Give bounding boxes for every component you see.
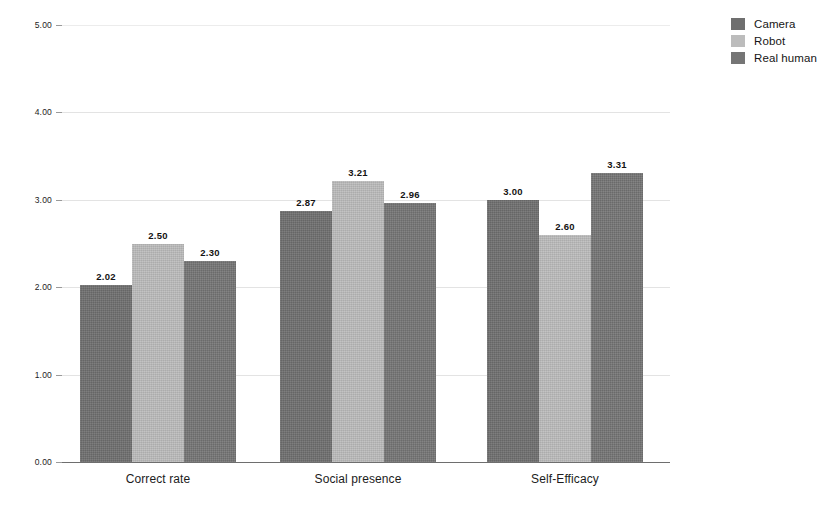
legend-item[interactable]: Real human — [731, 50, 817, 66]
legend-item[interactable]: Camera — [731, 16, 817, 32]
y-axis-tickmark — [56, 25, 62, 26]
y-axis-tick: 1.00 — [0, 371, 52, 372]
x-axis-category-label: Self-Efficacy — [531, 472, 599, 486]
bar-texture — [132, 244, 184, 463]
gridline — [62, 25, 670, 26]
chart-legend: CameraRobotReal human — [731, 16, 817, 67]
y-axis-tick: 4.00 — [0, 108, 52, 109]
x-axis-line — [62, 462, 670, 463]
bar: 2.30 — [184, 261, 236, 462]
bar-value-label: 2.02 — [96, 271, 115, 282]
y-axis-tick-label: 1.00 — [4, 371, 52, 380]
bar-texture — [280, 211, 332, 462]
bar-value-label: 2.87 — [296, 197, 315, 208]
bar-value-label: 2.30 — [200, 247, 219, 258]
y-axis-tick-label: 2.00 — [4, 283, 52, 292]
x-axis-category-label: Correct rate — [126, 472, 191, 486]
bar: 2.50 — [132, 244, 184, 463]
bar-texture — [539, 235, 591, 462]
y-axis-tickmark — [56, 287, 62, 288]
bar-value-label: 2.60 — [555, 221, 574, 232]
bar-value-label: 3.21 — [348, 167, 367, 178]
legend-item-label: Camera — [754, 18, 796, 30]
bar-texture — [487, 200, 539, 462]
y-axis-tick-label: 0.00 — [4, 458, 52, 467]
legend-item-label: Real human — [754, 52, 817, 64]
bar-texture — [384, 203, 436, 462]
legend-swatch-icon — [731, 52, 745, 64]
bar-texture — [80, 285, 132, 462]
bar: 2.60 — [539, 235, 591, 462]
bar: 3.21 — [332, 181, 384, 462]
y-axis-tick: 3.00 — [0, 196, 52, 197]
bar: 3.00 — [487, 200, 539, 462]
bar-chart: 0.001.002.003.004.005.00 2.022.502.302.8… — [0, 0, 840, 506]
bar: 3.31 — [591, 173, 643, 462]
y-axis-tickmark — [56, 375, 62, 376]
y-axis-tick: 5.00 — [0, 21, 52, 22]
y-axis-tick: 2.00 — [0, 283, 52, 284]
y-axis-tickmark — [56, 112, 62, 113]
y-axis-tick-label: 3.00 — [4, 196, 52, 205]
gridline — [62, 112, 670, 113]
bar-value-label: 2.50 — [148, 230, 167, 241]
bar: 2.87 — [280, 211, 332, 462]
y-axis-tick-label: 5.00 — [4, 21, 52, 30]
bar-texture — [184, 261, 236, 462]
bar: 2.96 — [384, 203, 436, 462]
legend-swatch-icon — [731, 35, 745, 47]
bar-value-label: 3.31 — [607, 159, 626, 170]
bar-texture — [591, 173, 643, 462]
plot-area: 0.001.002.003.004.005.00 2.022.502.302.8… — [0, 0, 840, 506]
y-axis-tickmark — [56, 200, 62, 201]
bar-texture — [332, 181, 384, 462]
legend-item-label: Robot — [754, 35, 785, 47]
legend-item[interactable]: Robot — [731, 33, 817, 49]
y-axis-tick: 0.00 — [0, 458, 52, 459]
bar-value-label: 3.00 — [503, 186, 522, 197]
y-axis-tick-label: 4.00 — [4, 108, 52, 117]
legend-swatch-icon — [731, 18, 745, 30]
bar-value-label: 2.96 — [400, 189, 419, 200]
bar: 2.02 — [80, 285, 132, 462]
x-axis-category-label: Social presence — [315, 472, 402, 486]
